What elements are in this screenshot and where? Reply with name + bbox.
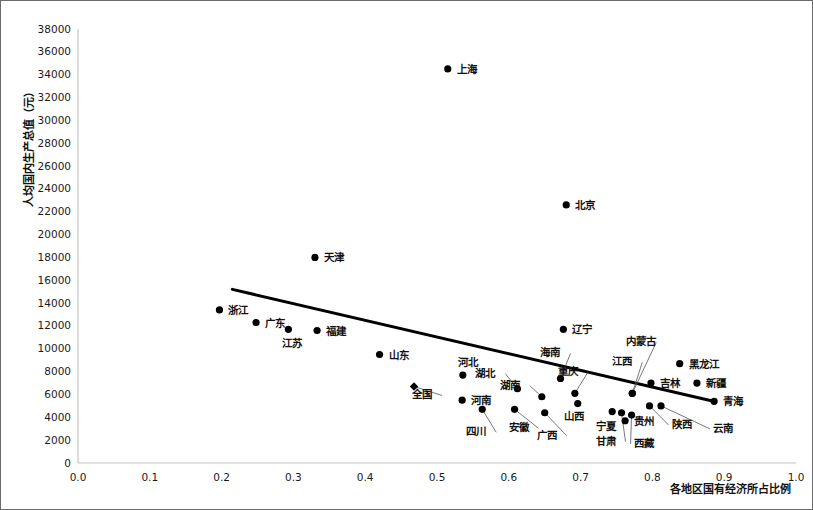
data-point-marker[interactable] (459, 371, 466, 378)
data-point-marker[interactable] (479, 406, 486, 413)
data-point-marker[interactable] (571, 390, 578, 397)
data-point-label: 湖南 (500, 379, 521, 391)
data-point-label: 吉林 (660, 377, 681, 389)
x-tick-label: 0.2 (213, 471, 230, 483)
data-point-marker[interactable] (676, 360, 683, 367)
y-tick-label: 24000 (38, 182, 71, 194)
data-point-marker[interactable] (252, 319, 259, 326)
data-point-marker[interactable] (693, 379, 700, 386)
data-point-label: 宁夏 (596, 420, 617, 432)
y-tick-label: 8000 (44, 365, 71, 377)
data-point-label: 广东 (265, 317, 286, 329)
data-point-label: 全国 (411, 388, 432, 400)
y-tick-label: 22000 (38, 205, 71, 217)
data-point-marker[interactable] (511, 406, 518, 413)
data-point-marker[interactable] (459, 397, 466, 404)
data-point-marker[interactable] (657, 402, 664, 409)
data-point-label: 湖北 (475, 367, 496, 379)
y-tick-label: 12000 (38, 319, 71, 331)
x-tick-label: 0.7 (572, 471, 589, 483)
y-tick-label: 32000 (38, 91, 71, 103)
data-point-marker[interactable] (376, 351, 383, 358)
data-point-label: 安徽 (509, 421, 530, 433)
data-point-marker[interactable] (618, 409, 625, 416)
x-tick-label: 0.0 (70, 471, 87, 483)
y-tick-label: 14000 (38, 297, 71, 309)
data-point-label: 新疆 (706, 377, 727, 389)
data-point-label: 重庆 (558, 365, 579, 377)
y-tick-label: 2000 (44, 434, 71, 446)
data-point-label: 贵州 (634, 415, 654, 427)
y-tick-label: 16000 (38, 274, 71, 286)
x-tick-label: 0.8 (644, 471, 661, 483)
data-point-label: 青海 (723, 395, 744, 407)
data-point-marker[interactable] (311, 254, 318, 261)
data-point-marker[interactable] (622, 417, 629, 424)
data-point-marker[interactable] (563, 201, 570, 208)
x-tick-label: 0.5 (429, 471, 446, 483)
data-point-marker[interactable] (647, 379, 654, 386)
y-tick-label: 26000 (38, 160, 71, 172)
x-tick-label: 0.3 (285, 471, 302, 483)
x-tick-label: 1.0 (788, 471, 805, 483)
x-tick-label: 0.1 (141, 471, 158, 483)
data-point-label: 陕西 (672, 418, 693, 430)
y-tick-label: 6000 (44, 388, 71, 400)
label-leader-line (632, 362, 642, 393)
data-point-marker[interactable] (560, 326, 567, 333)
y-tick-label: 34000 (38, 68, 71, 80)
chart-page: 0200040006000800010000120001400016000180… (0, 0, 813, 510)
y-tick-label: 36000 (38, 45, 71, 57)
data-point-label: 山东 (389, 349, 410, 361)
data-point-label: 江西 (612, 355, 633, 367)
label-leader-line (631, 415, 632, 444)
data-point-label: 甘肃 (596, 435, 617, 447)
y-tick-label: 38000 (38, 23, 71, 35)
data-point-marker[interactable] (285, 326, 292, 333)
y-tick-label: 20000 (38, 228, 71, 240)
y-tick-label: 4000 (44, 411, 71, 423)
y-tick-label: 10000 (38, 342, 71, 354)
data-point-marker[interactable] (574, 400, 581, 407)
y-tick-label: 18000 (38, 251, 71, 263)
data-point-label: 河南 (471, 394, 492, 406)
data-point-marker[interactable] (216, 306, 223, 313)
data-point-marker[interactable] (646, 402, 653, 409)
label-leader-line (622, 413, 626, 442)
data-point-label: 上海 (457, 63, 478, 75)
data-point-label: 北京 (575, 199, 596, 211)
x-tick-label: 0.4 (357, 471, 374, 483)
x-tick-label: 0.9 (716, 471, 733, 483)
data-point-label: 云南 (713, 422, 734, 434)
y-tick-label: 30000 (38, 114, 71, 126)
scatter-chart: 0200040006000800010000120001400016000180… (1, 1, 813, 510)
x-axis-title-text: 各地区国有经济所占比例 (669, 482, 791, 496)
data-point-label: 海南 (540, 346, 561, 358)
data-point-label: 广西 (537, 429, 558, 441)
data-point-marker[interactable] (541, 409, 548, 416)
data-point-label: 山西 (564, 410, 585, 422)
data-point-label: 西藏 (634, 437, 655, 449)
data-point-marker[interactable] (313, 327, 320, 334)
data-point-label: 天津 (324, 251, 345, 263)
data-point-marker[interactable] (444, 65, 451, 72)
x-tick-label: 0.6 (500, 471, 517, 483)
data-point-label: 辽宁 (572, 323, 592, 335)
data-point-marker[interactable] (609, 408, 616, 415)
data-point-marker[interactable] (629, 390, 636, 397)
data-point-marker[interactable] (538, 393, 545, 400)
data-point-label: 四川 (466, 425, 486, 437)
data-point-marker[interactable] (711, 398, 718, 405)
data-point-label: 浙江 (228, 304, 249, 316)
y-axis-title-text: 人均国内生产总值（元） (22, 86, 36, 207)
data-point-label: 内蒙古 (626, 335, 657, 347)
y-tick-label: 0 (64, 457, 71, 469)
y-tick-label: 28000 (38, 137, 71, 149)
data-point-label: 福建 (325, 325, 347, 337)
data-point-label: 黑龙江 (689, 358, 720, 370)
data-point-label: 江苏 (282, 337, 303, 349)
